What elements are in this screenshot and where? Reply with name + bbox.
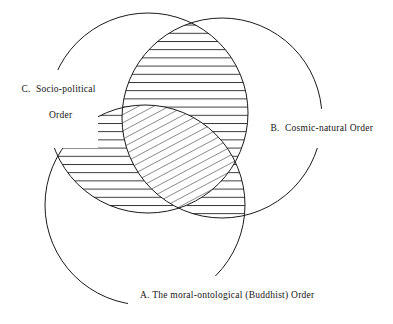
venn-diagram: C. Socio-political Order B. Cosmic-natur… (0, 0, 393, 324)
label-socio-political-line-2: Order (11, 109, 96, 122)
label-moral-ontological-order: A. The moral-ontological (Buddhist) Orde… (128, 276, 316, 315)
label-moral-ontological-text: A. The moral-ontological (Buddhist) Orde… (140, 290, 314, 300)
label-cosmic-natural-order: B. Cosmic-natural Order (258, 109, 375, 148)
label-socio-political-order: C. Socio-political Order (9, 70, 98, 148)
label-socio-political-line-1: C. Socio-political (22, 84, 96, 94)
label-cosmic-natural-text: B. Cosmic-natural Order (271, 123, 374, 133)
